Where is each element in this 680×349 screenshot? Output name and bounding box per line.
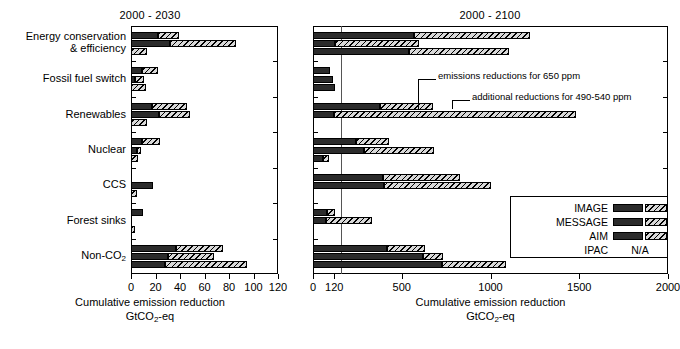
ytick-mark-5 xyxy=(131,203,136,204)
xtick-mark-4 xyxy=(579,274,580,279)
bar-segment-650ppm xyxy=(313,32,414,39)
bar-segment-650ppm xyxy=(313,40,335,47)
bar-aim-cat0 xyxy=(313,48,509,55)
xtick-mark-0 xyxy=(131,274,132,279)
xtick-label-4: 1500 xyxy=(567,281,591,293)
ytick-mark-right-6 xyxy=(273,239,278,240)
legend-label-ipac: IPAC xyxy=(536,244,613,256)
bar-aim-cat3 xyxy=(131,155,138,162)
ytick-mark-4 xyxy=(313,168,318,169)
xtick-mark-3 xyxy=(205,274,206,279)
ytick-mark-right-2 xyxy=(663,97,668,98)
bar-image-cat4 xyxy=(313,174,460,181)
xtick-label-3: 60 xyxy=(198,281,210,293)
panel-2000-2100: 2000 - 2100 0120500100015002000 emission… xyxy=(300,0,680,349)
bar-image-cat2 xyxy=(313,103,433,110)
annotation-650ppm: emissions reductions for 650 ppm xyxy=(438,70,580,81)
bar-segment-490-540ppm xyxy=(356,138,389,145)
bar-message-cat3 xyxy=(131,147,141,154)
bar-message-cat2 xyxy=(313,111,576,118)
legend-swatch-solid-aim xyxy=(613,232,643,240)
bar-segment-490-540ppm xyxy=(170,40,236,47)
bar-segment-490-540ppm xyxy=(131,119,147,126)
xtick-label-0: 0 xyxy=(128,281,134,293)
xtick-mark-2 xyxy=(402,274,403,279)
bar-segment-650ppm xyxy=(131,182,153,189)
bar-segment-650ppm xyxy=(313,174,383,181)
bar-aim-cat6 xyxy=(313,261,506,268)
bar-segment-650ppm xyxy=(131,111,159,118)
legend-label-message: MESSAGE xyxy=(536,216,613,228)
bar-segment-650ppm xyxy=(313,147,364,154)
legend-na-text: N/A xyxy=(613,244,667,256)
ytick-mark-right-3 xyxy=(663,132,668,133)
bar-segment-490-540ppm xyxy=(137,147,141,154)
bar-segment-650ppm xyxy=(131,40,170,47)
bar-segment-490-540ppm xyxy=(409,48,509,55)
leader-490-horizontal xyxy=(452,100,470,101)
xtick-mark-1 xyxy=(334,274,335,279)
bar-segment-490-540ppm xyxy=(135,76,145,83)
legend-row-image: IMAGE xyxy=(511,201,667,214)
bar-segment-490-540ppm xyxy=(326,217,371,224)
bar-image-cat5 xyxy=(131,209,143,216)
xtick-mark-1 xyxy=(156,274,157,279)
legend-swatch-hatch-message xyxy=(645,218,667,226)
legend-row-ipac: IPACN/A xyxy=(511,243,667,256)
ytick-mark-1 xyxy=(313,61,318,62)
bar-segment-650ppm xyxy=(313,253,423,260)
ytick-mark-4 xyxy=(131,168,136,169)
bar-segment-490-540ppm xyxy=(131,48,147,55)
bar-segment-490-540ppm xyxy=(442,261,507,268)
bar-message-cat0 xyxy=(313,40,419,47)
ytick-mark-right-1 xyxy=(663,61,668,62)
xtick-label-5: 2000 xyxy=(656,281,680,293)
bar-aim-cat3 xyxy=(313,155,329,162)
bar-segment-650ppm xyxy=(313,261,442,268)
legend-label-aim: AIM xyxy=(536,230,613,242)
ytick-mark-2 xyxy=(131,97,136,98)
bar-message-cat6 xyxy=(131,253,214,260)
bar-aim-cat6 xyxy=(131,261,247,268)
bar-segment-490-540ppm xyxy=(387,245,425,252)
bar-image-cat0 xyxy=(313,32,530,39)
bar-segment-650ppm xyxy=(313,217,326,224)
bar-segment-490-540ppm xyxy=(380,103,432,110)
legend-swatch-solid-message xyxy=(613,218,643,226)
bar-segment-490-540ppm xyxy=(383,174,460,181)
plot-area-left xyxy=(131,26,278,274)
bar-segment-490-540ppm xyxy=(323,155,329,162)
bar-image-cat6 xyxy=(131,245,223,252)
bar-segment-650ppm xyxy=(131,67,142,74)
bar-message-cat1 xyxy=(313,76,333,83)
bar-segment-490-540ppm xyxy=(364,147,434,154)
ytick-mark-3 xyxy=(131,132,136,133)
xtick-label-3: 1000 xyxy=(478,281,502,293)
bar-message-cat4 xyxy=(313,182,491,189)
bar-aim-cat5 xyxy=(131,226,135,233)
bar-segment-490-540ppm xyxy=(335,40,418,47)
ytick-mark-right-4 xyxy=(663,168,668,169)
bar-aim-cat4 xyxy=(131,190,137,197)
bar-segment-650ppm xyxy=(131,103,152,110)
ytick-mark-6 xyxy=(131,239,136,240)
xtick-mark-3 xyxy=(491,274,492,279)
bar-segment-490-540ppm xyxy=(384,182,491,189)
bar-segment-650ppm xyxy=(313,76,333,83)
bar-image-cat3 xyxy=(313,138,389,145)
ytick-mark-right-5 xyxy=(273,203,278,204)
bar-image-cat0 xyxy=(131,32,179,39)
xtick-label-2: 40 xyxy=(174,281,186,293)
bar-segment-650ppm xyxy=(131,138,142,145)
legend: IMAGEMESSAGEAIMIPACN/A xyxy=(510,196,668,258)
bar-segment-490-540ppm xyxy=(168,253,215,260)
bar-segment-650ppm xyxy=(313,245,387,252)
bar-message-cat1 xyxy=(131,76,144,83)
annotation-490-540ppm: additional reductions for 490-540 ppm xyxy=(472,91,632,102)
bar-segment-650ppm xyxy=(313,155,323,162)
bar-aim-cat2 xyxy=(131,119,147,126)
panel-2000-2030: 2000 - 2030 020406080100120 Cumulative e… xyxy=(0,0,300,349)
bar-segment-490-540ppm xyxy=(131,84,146,91)
legend-swatch-solid-image xyxy=(613,204,643,212)
bar-message-cat3 xyxy=(313,147,434,154)
